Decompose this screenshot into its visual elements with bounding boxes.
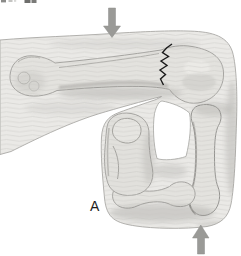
upward-force-arrow-icon xyxy=(193,225,210,254)
elbow-fracture-illustration xyxy=(0,0,241,256)
panel-label: A xyxy=(90,198,100,214)
elbow-crease-gap xyxy=(153,101,190,160)
hatching-texture xyxy=(0,0,241,256)
cropped-text-fragments xyxy=(1,0,37,3)
figure-panel: A xyxy=(0,0,241,256)
